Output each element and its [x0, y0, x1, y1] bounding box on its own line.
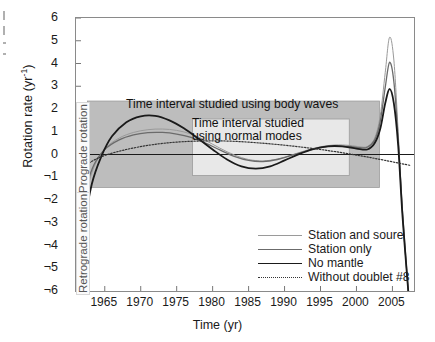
page-edge-artifact [3, 42, 6, 44]
annotation-normal-modes: Time interval studied using normal modes [192, 117, 304, 143]
legend-label: No mantle [308, 257, 364, 270]
annotation-normal-modes-line2: using normal modes [192, 130, 304, 143]
page-edge-artifact [3, 53, 6, 55]
y-tick-label: ¬1 [32, 170, 58, 182]
y-tick-label: ¬3 [32, 216, 58, 228]
y-axis-label-exponent: -1 [19, 69, 29, 77]
y-tick-label: 6 [32, 11, 58, 23]
legend-line-swatch [258, 277, 302, 278]
legend-line-swatch [258, 263, 302, 264]
y-tick-label: ¬4 [32, 239, 58, 251]
y-tick-label: 1 [32, 125, 58, 137]
y-tick-label: 3 [32, 79, 58, 91]
x-tick-label: 2005 [369, 296, 413, 308]
y-tick-label: 4 [32, 57, 58, 69]
y-tick-label: ¬6 [32, 284, 58, 296]
legend-label: Without doublet #8 [308, 271, 410, 284]
legend-item[interactable]: Station only [258, 242, 410, 256]
y-axis-tick-labels: 6543210¬1¬2¬3¬4¬5¬6 [30, 0, 58, 342]
legend-label: Station and soure [308, 229, 404, 242]
label-prograde-rotation: Prograde rotation [76, 102, 90, 195]
x-axis-tick-labels: 196519701975198019851990199520002005 [0, 296, 435, 312]
page-edge-artifact [3, 26, 5, 35]
legend-item[interactable]: Station and soure [258, 228, 410, 242]
y-tick-label: ¬5 [32, 261, 58, 273]
y-tick-label: 5 [32, 34, 58, 46]
y-tick-label: ¬2 [32, 193, 58, 205]
legend-label: Station only [308, 243, 372, 256]
annotation-body-waves: Time interval studied using body waves [126, 98, 338, 111]
x-axis-label: Time (yr) [0, 318, 435, 332]
label-retrograde-rotation: Retrograde rotation [76, 192, 90, 295]
legend-item[interactable]: Without doublet #8 [258, 270, 410, 284]
legend-item[interactable]: No mantle [258, 256, 410, 270]
legend-line-swatch [258, 249, 302, 250]
y-tick-label: 2 [32, 102, 58, 114]
page-edge-artifact [3, 11, 5, 20]
figure-root: Rotation rate (yr-1) Time (yr) 6543210¬1… [0, 0, 435, 342]
legend-line-swatch [258, 235, 302, 236]
legend: Station and soureStation onlyNo mantleWi… [258, 228, 410, 284]
y-tick-label: 0 [32, 148, 58, 160]
